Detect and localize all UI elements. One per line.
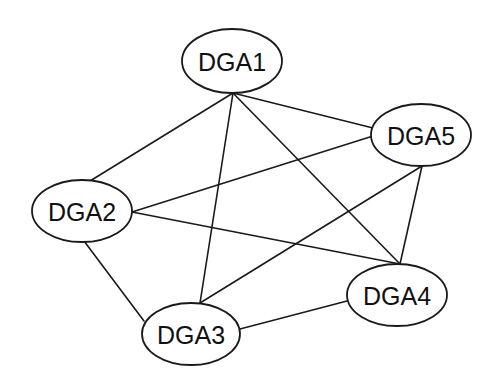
node-dga4: DGA4 <box>347 264 447 326</box>
edge-dga1-dga3 <box>200 93 233 303</box>
edge-dga5-dga4 <box>400 166 422 264</box>
network-diagram: DGA1DGA2DGA3DGA4DGA5 <box>0 0 492 382</box>
edge-dga2-dga3 <box>84 241 144 321</box>
node-label: DGA2 <box>48 198 116 226</box>
node-dga2: DGA2 <box>32 180 132 242</box>
node-dga1: DGA1 <box>182 29 282 93</box>
edge-dga1-dga2 <box>90 93 233 181</box>
node-label: DGA3 <box>157 321 225 349</box>
edge-dga3-dga4 <box>240 301 347 329</box>
node-label: DGA1 <box>198 48 266 76</box>
node-label: DGA4 <box>363 282 431 310</box>
node-dga3: DGA3 <box>142 303 240 365</box>
edge-dga1-dga4 <box>233 93 400 264</box>
edge-dga2-dga5 <box>132 136 373 212</box>
nodes-group: DGA1DGA2DGA3DGA4DGA5 <box>32 29 471 365</box>
node-label: DGA5 <box>387 122 455 150</box>
node-dga5: DGA5 <box>371 104 471 166</box>
edge-dga1-dga5 <box>233 93 373 128</box>
edge-dga2-dga4 <box>132 212 400 264</box>
